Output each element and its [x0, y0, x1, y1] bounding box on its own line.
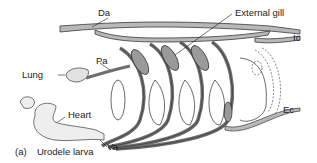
caption-prefix: (a) [15, 147, 27, 157]
circulation-diagram [0, 0, 317, 163]
label-da: Da [98, 8, 110, 18]
label-heart: Heart [68, 110, 91, 120]
leader-lines [58, 14, 232, 147]
label-external-gill: External gill [235, 8, 284, 18]
label-ec: Ec [283, 105, 294, 115]
label-va: Va [107, 142, 118, 152]
pharynx-outlines [111, 58, 266, 125]
label-ic: Ic [293, 33, 300, 43]
pulmonary-artery [86, 66, 130, 78]
lung [66, 68, 89, 82]
label-lung: Lung [22, 70, 43, 80]
sinus-venosus [20, 97, 34, 109]
label-pa: Pa [96, 56, 108, 66]
caption-title: Urodele larva [37, 147, 94, 157]
